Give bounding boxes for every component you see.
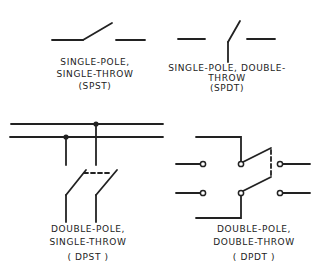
spdt-label-line-2: THROW [168,73,286,83]
spdt-label-line-3: (SPDT) [168,83,286,93]
spst-label: SINGLE-POLE, SINGLE-THROW (SPST) [57,56,134,92]
dpst-symbol [10,124,163,222]
dpdt-label-line-1: DOUBLE-POLE, [213,223,295,236]
spdt-label-line-1: SINGLE-POLE, DOUBLE- [168,63,286,73]
spdt-symbol [178,21,275,62]
spst-label-line-2: SINGLE-THROW [57,68,134,80]
dpst-label-line-2: SINGLE-THROW [50,236,127,249]
dpdt-label: DOUBLE-POLE, DOUBLE-THROW ( DPDT ) [213,223,295,264]
spst-label-line-1: SINGLE-POLE, [57,56,134,68]
spst-label-line-3: (SPST) [57,80,134,92]
dpdt-label-line-3: ( DPDT ) [213,251,295,264]
switch-types-diagram: SINGLE-POLE, SINGLE-THROW (SPST) SINGLE-… [0,0,327,280]
dpst-label-line-1: DOUBLE-POLE, [50,223,127,236]
spdt-label: SINGLE-POLE, DOUBLE- THROW (SPDT) [168,63,286,93]
dpst-label: DOUBLE-POLE, SINGLE-THROW ( DPST ) [50,223,127,264]
dpdt-symbol [176,137,310,218]
dpdt-label-line-2: DOUBLE-THROW [213,236,295,249]
spst-symbol [52,23,145,40]
dpst-label-line-3: ( DPST ) [50,251,127,264]
